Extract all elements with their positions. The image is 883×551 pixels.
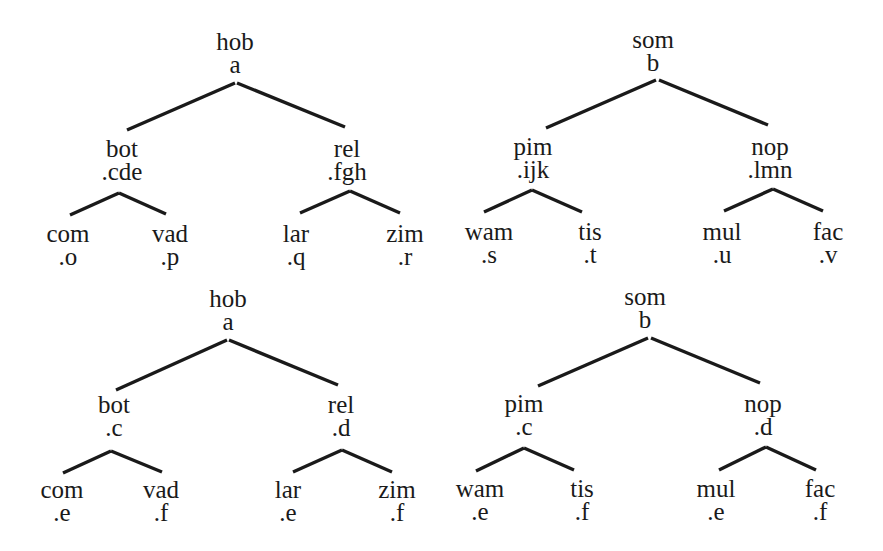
node-feature-tag: .lmn: [747, 158, 792, 181]
node-word: pim: [514, 135, 553, 158]
node-feature-tag: .f: [378, 501, 416, 524]
tree-edge: [350, 191, 400, 213]
tree-edge: [342, 450, 392, 472]
node-feature-tag: .c: [505, 415, 544, 438]
tree-node-leaf: fac.v: [813, 220, 844, 266]
tree-node-leaf: vad.f: [143, 478, 179, 524]
tree-node-root: hoba: [209, 287, 247, 333]
tree-node-leaf: wam.e: [456, 477, 505, 523]
node-feature-tag: .t: [578, 243, 602, 266]
tree-node-leaf: vad.p: [152, 222, 188, 268]
tree-edge: [229, 340, 338, 385]
tree-node-root: hoba: [216, 30, 254, 76]
node-word: rel: [328, 393, 354, 416]
node-word: hob: [209, 287, 247, 310]
node-feature-tag: .ijk: [514, 158, 553, 181]
node-word: tis: [578, 220, 602, 243]
node-feature-tag: .cde: [102, 160, 143, 183]
node-feature-tag: .d: [328, 416, 354, 439]
node-feature-tag: .r: [386, 245, 424, 268]
node-feature-tag: .f: [143, 501, 179, 524]
node-word: fac: [813, 220, 844, 243]
tree-node-leaf: lar.q: [283, 222, 309, 268]
tree-node-leaf: fac.f: [805, 477, 836, 523]
node-word: zim: [378, 478, 416, 501]
tree-node-leaf: mul.e: [697, 477, 736, 523]
node-word: nop: [744, 392, 782, 415]
node-feature-tag: .e: [275, 501, 301, 524]
tree-node-leaf: lar.e: [275, 478, 301, 524]
node-feature-tag: .p: [152, 245, 188, 268]
node-feature-tag: .e: [697, 500, 736, 523]
tree-node-leaf: mul.u: [703, 220, 742, 266]
tree-node-root: somb: [632, 28, 674, 74]
tree-edge: [651, 338, 760, 383]
tree-edge: [766, 447, 816, 470]
tree-node-leaf: tis.f: [570, 477, 594, 523]
node-feature-tag: .f: [570, 500, 594, 523]
tree-node-branch: pim.ijk: [514, 135, 553, 181]
node-word: wam: [456, 477, 505, 500]
tree-edge: [476, 448, 524, 471]
tree-edge: [719, 447, 766, 470]
node-word: bot: [102, 137, 143, 160]
tree-node-branch: nop.d: [744, 392, 782, 438]
node-word: com: [46, 222, 89, 245]
tree-edges: [0, 0, 883, 551]
node-word: nop: [747, 135, 792, 158]
node-word: vad: [143, 478, 179, 501]
tree-edge: [532, 190, 582, 212]
tree-node-branch: bot.cde: [102, 137, 143, 183]
tree-node-leaf: zim.f: [378, 478, 416, 524]
tree-edge: [546, 80, 656, 128]
node-feature-tag: .q: [283, 245, 309, 268]
node-word: som: [624, 285, 666, 308]
tree-node-branch: rel.d: [328, 393, 354, 439]
node-feature-tag: .v: [813, 243, 844, 266]
tree-edge: [300, 191, 350, 213]
node-word: som: [632, 28, 674, 51]
tree-edge: [773, 189, 823, 211]
node-word: lar: [275, 478, 301, 501]
tree-node-branch: nop.lmn: [747, 135, 792, 181]
node-feature-tag: b: [632, 51, 674, 74]
node-feature-tag: .fgh: [327, 160, 367, 183]
tree-edge: [237, 83, 345, 127]
tree-edge: [63, 451, 111, 473]
tree-node-leaf: com.o: [46, 222, 89, 268]
tree-edge: [524, 448, 574, 470]
tree-node-leaf: zim.r: [386, 222, 424, 268]
node-feature-tag: a: [209, 310, 247, 333]
node-word: tis: [570, 477, 594, 500]
node-word: bot: [98, 393, 130, 416]
tree-edge: [111, 451, 162, 472]
node-word: wam: [465, 220, 514, 243]
node-feature-tag: .d: [744, 415, 782, 438]
node-feature-tag: .u: [703, 243, 742, 266]
node-feature-tag: a: [216, 53, 254, 76]
node-word: vad: [152, 222, 188, 245]
tree-edge: [293, 450, 342, 472]
tree-edge: [724, 189, 773, 211]
node-word: zim: [386, 222, 424, 245]
tree-edge: [127, 83, 235, 130]
node-feature-tag: b: [624, 308, 666, 331]
tree-node-root: somb: [624, 285, 666, 331]
node-word: lar: [283, 222, 309, 245]
node-word: rel: [327, 137, 367, 160]
tree-node-leaf: tis.t: [578, 220, 602, 266]
node-feature-tag: .c: [98, 416, 130, 439]
tree-node-branch: rel.fgh: [327, 137, 367, 183]
node-word: mul: [697, 477, 736, 500]
tree-edge: [484, 190, 532, 212]
tree-edge: [116, 340, 227, 390]
node-feature-tag: .e: [456, 500, 505, 523]
tree-node-branch: pim.c: [505, 392, 544, 438]
tree-node-branch: bot.c: [98, 393, 130, 439]
tree-diagram-canvas: hobabot.cdecom.ovad.prel.fghlar.qzim.rso…: [0, 0, 883, 551]
tree-edge: [70, 193, 119, 215]
node-feature-tag: .s: [465, 243, 514, 266]
node-feature-tag: .e: [40, 501, 83, 524]
node-word: mul: [703, 220, 742, 243]
node-feature-tag: .o: [46, 245, 89, 268]
